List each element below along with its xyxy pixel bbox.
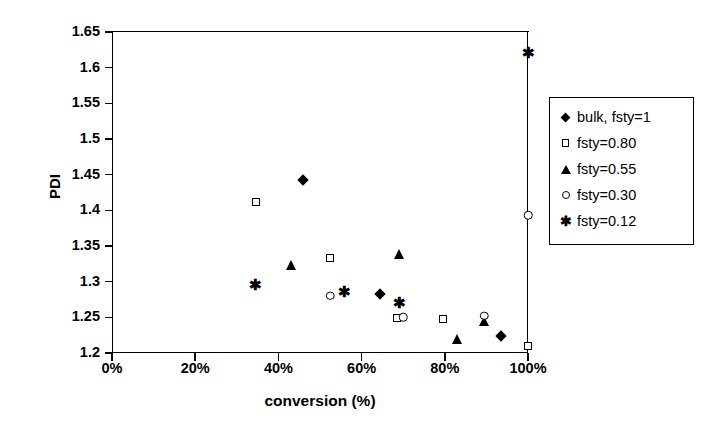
data-point xyxy=(524,342,532,350)
data-point xyxy=(252,198,260,206)
y-tick-mark xyxy=(105,281,113,283)
legend-row: ✱fsty=0.12 xyxy=(557,208,693,234)
plot-area xyxy=(112,32,528,353)
y-tick-label: 1.35 xyxy=(38,237,100,253)
legend-label: fsty=0.30 xyxy=(577,187,636,203)
chart-legend: bulk, fsty=1fsty=0.80fsty=0.55fsty=0.30✱… xyxy=(549,97,694,245)
scatter-chart-figure: PDI conversion (%) 1.21.251.31.351.41.45… xyxy=(0,0,709,432)
legend-row: fsty=0.30 xyxy=(557,182,693,208)
x-axis-title: conversion (%) xyxy=(112,392,528,410)
legend-label: fsty=0.55 xyxy=(577,161,636,177)
x-tick-label: 20% xyxy=(160,360,230,376)
y-tick-label: 1.25 xyxy=(38,308,100,324)
data-point xyxy=(286,260,296,270)
data-point: ✱ xyxy=(249,277,262,290)
legend-marker-icon xyxy=(557,188,574,202)
data-point: ✱ xyxy=(338,284,351,297)
y-tick-label: 1.55 xyxy=(38,94,100,110)
legend-marker-icon xyxy=(557,110,574,124)
y-tick-mark xyxy=(105,174,113,176)
data-point xyxy=(524,211,533,220)
y-tick-mark xyxy=(105,103,113,105)
y-tick-label: 1.5 xyxy=(38,130,100,146)
legend-label: bulk, fsty=1 xyxy=(577,109,651,125)
y-tick-label: 1.45 xyxy=(38,166,100,182)
y-tick-label: 1.3 xyxy=(38,273,100,289)
data-point: ✱ xyxy=(393,295,406,308)
data-point xyxy=(326,292,335,301)
x-tick-label: 100% xyxy=(493,360,563,376)
plot-frame-top xyxy=(112,31,529,32)
legend-row: bulk, fsty=1 xyxy=(557,104,693,130)
legend-marker-icon: ✱ xyxy=(557,214,574,228)
data-point xyxy=(480,312,489,321)
plot-frame-right xyxy=(527,31,528,354)
x-tick-label: 80% xyxy=(410,360,480,376)
legend-marker-icon xyxy=(557,162,574,176)
y-tick-mark xyxy=(105,245,113,247)
legend-row: fsty=0.55 xyxy=(557,156,693,182)
y-tick-label: 1.4 xyxy=(38,201,100,217)
x-tick-label: 60% xyxy=(327,360,397,376)
y-tick-mark xyxy=(105,317,113,319)
data-point xyxy=(394,249,404,259)
y-tick-mark xyxy=(105,67,113,69)
y-tick-mark xyxy=(105,138,113,140)
data-point xyxy=(439,315,447,323)
legend-marker-icon xyxy=(557,136,574,150)
y-tick-mark xyxy=(105,210,113,212)
y-tick-label: 1.6 xyxy=(38,59,100,75)
y-tick-label: 1.2 xyxy=(38,344,100,360)
legend-row: fsty=0.80 xyxy=(557,130,693,156)
data-point xyxy=(452,334,462,344)
y-tick-mark xyxy=(105,31,113,33)
legend-label: fsty=0.80 xyxy=(577,135,636,151)
data-point xyxy=(326,254,334,262)
x-tick-label: 0% xyxy=(77,360,147,376)
legend-label: fsty=0.12 xyxy=(577,213,636,229)
x-tick-label: 40% xyxy=(243,360,313,376)
y-tick-label: 1.65 xyxy=(38,23,100,39)
data-point: ✱ xyxy=(522,45,535,58)
data-point xyxy=(399,313,408,322)
